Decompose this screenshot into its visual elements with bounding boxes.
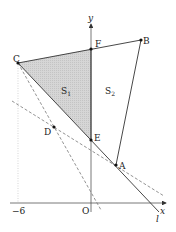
label-s2: S2 <box>105 86 115 97</box>
label-f: F <box>95 39 101 49</box>
label-c: C <box>13 54 20 64</box>
tick-label-neg6: −6 <box>12 206 26 216</box>
point-f <box>89 47 92 50</box>
label-b: B <box>143 36 150 46</box>
label-origin: O <box>82 206 89 216</box>
point-e <box>89 138 92 141</box>
label-line-l: l <box>156 214 159 224</box>
point-a <box>114 163 117 166</box>
label-d: D <box>44 127 51 137</box>
label-e: E <box>94 133 101 143</box>
label-a: A <box>118 161 126 171</box>
geometry-diagram: C F B E A D S1 S2 y x O −6 l <box>0 0 176 232</box>
segment-ba <box>116 40 141 165</box>
label-y-axis: y <box>87 13 94 23</box>
label-x-axis: x <box>160 206 165 216</box>
point-d <box>52 125 55 128</box>
